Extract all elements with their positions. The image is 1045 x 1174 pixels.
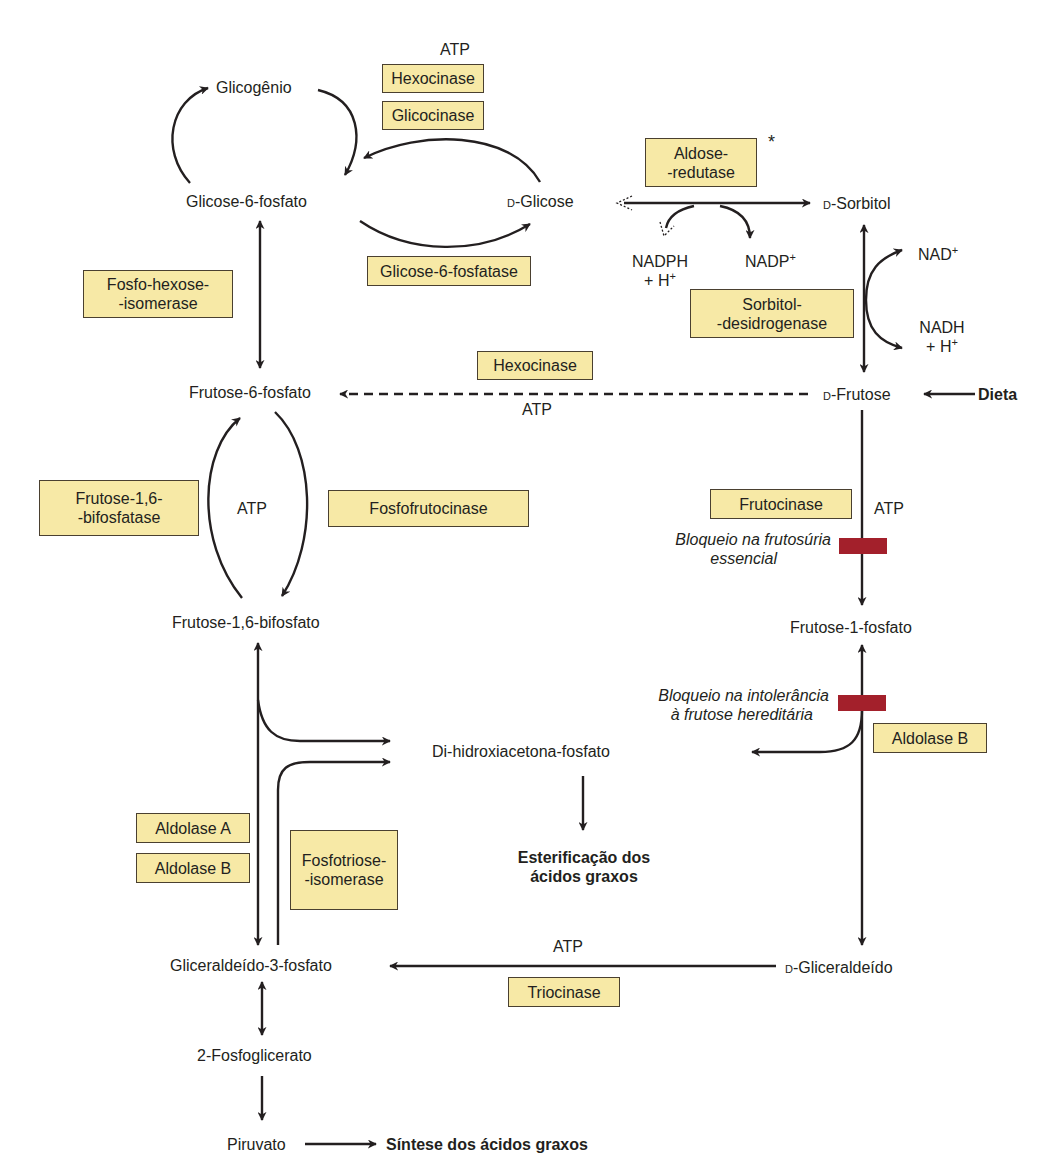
enzyme-triocinase: Triocinase [508, 977, 620, 1007]
metabolite-piruvato: Piruvato [227, 1135, 286, 1154]
metabolite-glicogenio: Glicogênio [216, 78, 292, 97]
enzyme-sorbitol-desidrogenase: Sorbitol- -desidrogenase [690, 289, 854, 338]
arrow-nadph [666, 206, 694, 228]
cofactor-nadp: NADP+ [745, 252, 796, 271]
enzyme-hexocinase-top: Hexocinase [382, 64, 484, 93]
metabolite-frutose-6-fosfato: Frutose-6-fosfato [189, 383, 311, 402]
enzyme-fosfotriose-isomerase: Fosfotriose- -isomerase [290, 830, 398, 910]
metabolite-gliceraldeido-3-fosfato: Gliceraldeído-3-fosfato [170, 956, 332, 975]
enzyme-aldolase-b-right: Aldolase B [873, 723, 987, 753]
metabolite-glicose-6-fosfato: Glicose-6-fosfato [186, 192, 307, 211]
arrow-g6p-to-glicose [360, 221, 530, 247]
enzyme-frutose-1-6-bifosfatase: Frutose-1,6- -bifosfatase [39, 480, 199, 536]
asterisk-note: * [768, 133, 775, 152]
cofactor-nadh: NADH + H+ [919, 318, 964, 356]
metabolite-di-hidroxiacetona-fosfato: Di-hidroxiacetona-fosfato [432, 742, 610, 761]
cofactor-atp-triocinase: ATP [553, 937, 583, 956]
arrow-f16bp-to-dhap [258, 700, 390, 741]
block-label-frutosuria: Bloqueio na frutosúria essencial [675, 530, 831, 568]
enzyme-glicocinase: Glicocinase [382, 101, 484, 130]
enzyme-glicose-6-fosfatase: Glicose-6-fosfatase [367, 256, 531, 286]
enzyme-aldolase-b-left: Aldolase B [136, 853, 250, 883]
metabolite-frutose-1-6-bifosfato: Frutose-1,6-bifosfato [172, 613, 320, 632]
metabolite-2-fosfoglicerato: 2-Fosfoglicerato [197, 1046, 312, 1065]
cofactor-atp-top: ATP [440, 40, 470, 59]
arrow-nad [866, 250, 902, 300]
metabolite-frutose-1-fosfato: Frutose-1-fosfato [790, 618, 912, 637]
enzyme-hexocinase-mid: Hexocinase [477, 351, 593, 380]
metabolite-d-frutose: D-Frutose [823, 385, 891, 406]
arrow-glicose-to-g6p [364, 139, 540, 182]
cofactor-nadph: NADPH + H+ [632, 252, 688, 290]
block-bar-intolerancia [838, 695, 886, 711]
outcome-esterificacao: Esterificação dos ácidos graxos [518, 848, 651, 886]
cofactor-atp-hexocinase: ATP [522, 400, 552, 419]
arrow-g6p-to-glicogenio [172, 88, 208, 183]
block-label-intolerancia: Bloqueio na intolerância à frutose hered… [658, 686, 829, 724]
block-bar-frutosuria [839, 538, 887, 554]
enzyme-aldolase-a: Aldolase A [136, 813, 250, 843]
metabolite-d-gliceraldeido: D-Gliceraldeído [785, 958, 893, 979]
arrow-f6p-to-f16bp [275, 412, 307, 596]
enzyme-frutocinase: Frutocinase [710, 489, 852, 519]
enzyme-fosfofrutocinase: Fosfofrutocinase [328, 490, 529, 527]
arrow-nadh [866, 300, 902, 348]
metabolite-d-glicose: D-Glicose [507, 192, 574, 213]
cofactor-atp-frutocinase: ATP [874, 499, 904, 518]
metabolite-d-sorbitol: D-Sorbitol [823, 194, 891, 215]
arrow-glicogenio-to-g6p [318, 90, 356, 175]
arrow-nadp [720, 206, 750, 238]
cofactor-nad: NAD+ [918, 245, 958, 264]
source-dieta: Dieta [978, 385, 1017, 404]
cofactor-atp-fosfofrutocinase: ATP [237, 499, 267, 518]
outcome-sintese-acidos-graxos: Síntese dos ácidos graxos [386, 1135, 588, 1154]
enzyme-aldose-redutase: Aldose- -redutase [645, 138, 757, 187]
enzyme-fosfo-hexose-isomerase: Fosfo-hexose- -isomerase [83, 270, 233, 318]
